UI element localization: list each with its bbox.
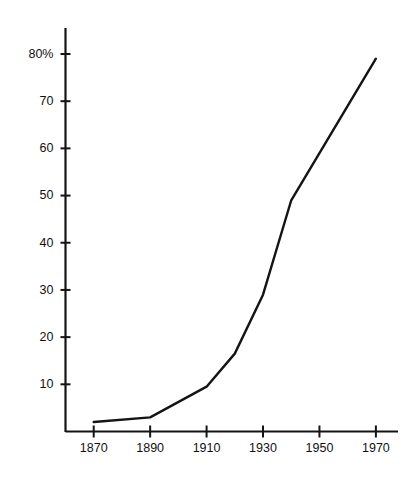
x-tick-label-1930: 1930 — [249, 441, 277, 455]
x-tick-label-1970: 1970 — [362, 441, 390, 455]
line-chart-canvas: 1020304050607080% 1870189019101930195019… — [0, 0, 406, 485]
x-tick-label-1950: 1950 — [306, 441, 334, 455]
x-tick-label-1890: 1890 — [136, 441, 164, 455]
y-tick-label-40: 40 — [40, 236, 54, 250]
x-tick-label-1870: 1870 — [80, 441, 108, 455]
y-tick-label-80: 80% — [28, 47, 53, 61]
y-tick-label-50: 50 — [40, 188, 54, 202]
x-tick-label-1910: 1910 — [193, 441, 221, 455]
y-tick-label-30: 30 — [40, 283, 54, 297]
y-tick-label-70: 70 — [40, 94, 54, 108]
y-tick-label-10: 10 — [40, 377, 54, 391]
y-tick-label-20: 20 — [40, 330, 54, 344]
chart-figure: 1020304050607080% 1870189019101930195019… — [0, 0, 406, 485]
y-tick-label-60: 60 — [40, 141, 54, 155]
